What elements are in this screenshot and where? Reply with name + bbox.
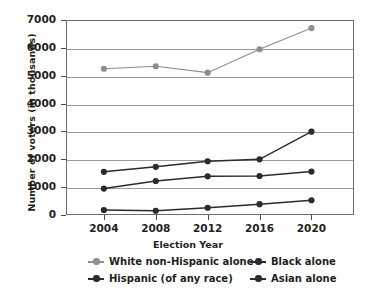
x-tick-mark (104, 215, 105, 220)
gridline (67, 188, 353, 189)
y-tick-mark (61, 215, 66, 216)
chart-legend: White non-Hispanic aloneBlack aloneHispa… (88, 253, 376, 287)
legend-item: White non-Hispanic alone (88, 257, 250, 267)
y-tick-label: 0 (0, 208, 56, 220)
plot-area (66, 20, 354, 215)
legend-item: Hispanic (of any race) (88, 274, 250, 284)
x-tick-label: 2004 (82, 222, 126, 234)
legend-label: Asian alone (271, 274, 336, 284)
legend-label: Hispanic (of any race) (109, 274, 233, 284)
x-tick-mark (156, 215, 157, 220)
gridline (67, 105, 353, 106)
gridline (67, 132, 353, 133)
y-tick-label: 2000 (0, 152, 56, 164)
y-tick-label: 3000 (0, 124, 56, 136)
x-tick-mark (311, 215, 312, 220)
x-tick-label: 2016 (238, 222, 282, 234)
y-tick-label: 5000 (0, 69, 56, 81)
x-axis-title: Election Year (0, 239, 376, 250)
y-tick-mark (61, 76, 66, 77)
legend-marker-icon (88, 257, 104, 266)
legend-marker-icon (88, 274, 104, 283)
y-tick-label: 7000 (0, 13, 56, 25)
chart-figure: Number of voters (in thousands) 01000200… (0, 0, 376, 296)
y-tick-mark (61, 159, 66, 160)
y-tick-mark (61, 20, 66, 21)
legend-marker-icon (250, 257, 266, 266)
x-tick-label: 2020 (289, 222, 333, 234)
y-tick-label: 4000 (0, 97, 56, 109)
legend-label: White non-Hispanic alone (109, 257, 253, 267)
gridline (67, 77, 353, 78)
y-tick-mark (61, 48, 66, 49)
x-tick-label: 2008 (134, 222, 178, 234)
y-tick-label: 1000 (0, 180, 56, 192)
legend-label: Black alone (271, 257, 336, 267)
legend-item: Black alone (250, 257, 376, 267)
x-tick-label: 2012 (186, 222, 230, 234)
x-tick-mark (208, 215, 209, 220)
y-tick-label: 6000 (0, 41, 56, 53)
x-tick-mark (260, 215, 261, 220)
y-tick-mark (61, 131, 66, 132)
gridline (67, 49, 353, 50)
y-tick-mark (61, 104, 66, 105)
legend-item: Asian alone (250, 274, 376, 284)
legend-marker-icon (250, 274, 266, 283)
gridline (67, 160, 353, 161)
y-tick-mark (61, 187, 66, 188)
